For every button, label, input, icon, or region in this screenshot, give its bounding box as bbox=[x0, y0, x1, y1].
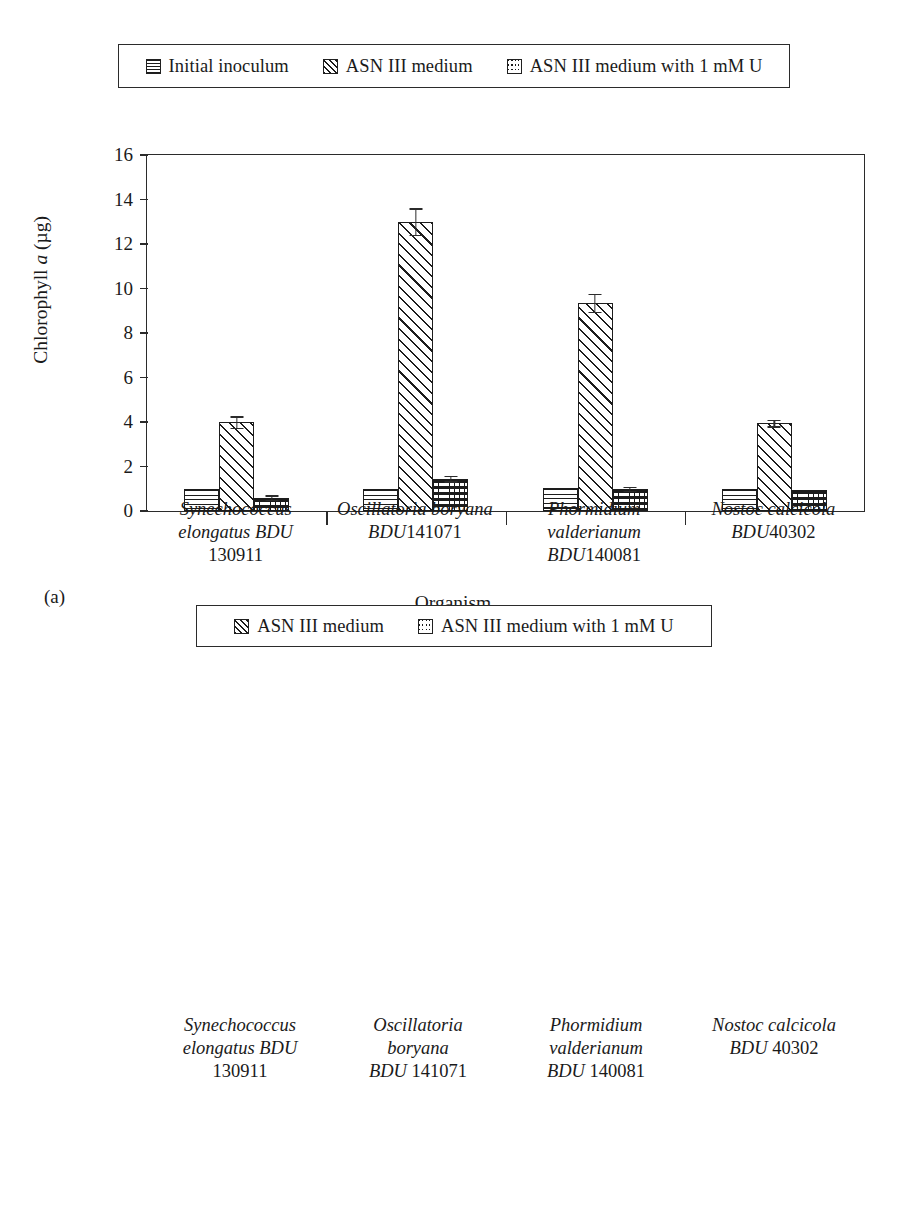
bar bbox=[398, 222, 433, 511]
legend-swatch-dotted-icon bbox=[507, 59, 522, 74]
x-axis-category-line: BDU 141071 bbox=[315, 1060, 521, 1083]
bar bbox=[578, 303, 613, 511]
y-axis-tick: 16 bbox=[114, 144, 147, 166]
legend-panel-a: Initial inoculum ASN III medium ASN III … bbox=[118, 44, 790, 88]
y-axis-tick-label: 2 bbox=[124, 456, 141, 478]
y-axis-tick-label: 14 bbox=[114, 189, 140, 211]
y-axis-tick-mark bbox=[140, 199, 148, 200]
x-axis-category-line: valderianum bbox=[491, 521, 698, 544]
error-bar-cap bbox=[409, 208, 422, 209]
legend-item-asn-iii-medium: ASN III medium bbox=[234, 616, 384, 637]
legend-item-asn-iii-medium: ASN III medium bbox=[323, 56, 473, 77]
legend-label: ASN III medium with 1 mM U bbox=[441, 616, 674, 637]
y-axis-tick-mark bbox=[140, 332, 148, 333]
error-bar-cap bbox=[265, 495, 278, 496]
legend-label: ASN III medium bbox=[257, 616, 384, 637]
plot-area-panel-a: 0246810121416 bbox=[146, 154, 865, 512]
y-axis-tick-label: 8 bbox=[124, 322, 141, 344]
x-axis-category-label: Oscillatoria boryanaBDU141071 bbox=[311, 498, 518, 544]
x-axis-category-label: PhormidiumvalderianumBDU140081 bbox=[491, 498, 698, 567]
error-bar-cap bbox=[230, 428, 243, 429]
x-axis-category-line: BDU40302 bbox=[670, 521, 877, 544]
legend-swatch-dotted-icon bbox=[418, 619, 433, 634]
figure-root: Initial inoculum ASN III medium ASN III … bbox=[0, 0, 906, 1215]
legend-label: ASN III medium with 1 mM U bbox=[530, 56, 763, 77]
error-bar-cap bbox=[444, 481, 457, 482]
legend-label: Initial inoculum bbox=[169, 56, 289, 77]
x-axis-category-line: Nostoc calcicola bbox=[671, 1014, 877, 1037]
error-bar bbox=[236, 416, 237, 427]
x-axis-category-line: Nostoc calcicola bbox=[670, 498, 877, 521]
x-axis-category-label: Nostoc calcicolaBDU40302 bbox=[670, 498, 877, 544]
x-axis-category-label: OscillatoriaboryanaBDU 141071 bbox=[315, 1014, 521, 1083]
y-axis-tick-mark bbox=[140, 466, 148, 467]
error-bar-cap bbox=[768, 420, 781, 421]
x-axis-category-line: Phormidium bbox=[491, 498, 698, 521]
panel-b: ASN III medium ASN III medium with 1 mM … bbox=[0, 595, 906, 1190]
x-axis-category-label: Nostoc calcicolaBDU 40302 bbox=[671, 1014, 877, 1060]
y-axis-tick: 12 bbox=[114, 233, 147, 255]
legend-item-asn-iii-medium-with-uranium: ASN III medium with 1 mM U bbox=[507, 56, 763, 77]
x-axis-category-line: Oscillatoria bbox=[315, 1014, 521, 1037]
y-axis-tick: 4 bbox=[124, 411, 148, 433]
error-bar-cap bbox=[589, 312, 602, 313]
x-axis-category-line: Synechococcus bbox=[132, 498, 339, 521]
x-axis-category-line: BDU141071 bbox=[311, 521, 518, 544]
x-axis-category-line: BDU 40302 bbox=[671, 1037, 877, 1060]
error-bar-cap bbox=[589, 294, 602, 295]
legend-panel-b: ASN III medium ASN III medium with 1 mM … bbox=[196, 605, 712, 647]
y-axis-title-panel-a: Chlorophyll a (µg) bbox=[30, 216, 52, 364]
x-axis-category-label: Synechococcuselongatus BDU130911 bbox=[132, 498, 339, 567]
y-axis-tick-mark bbox=[140, 243, 148, 244]
error-bar bbox=[415, 208, 416, 235]
x-axis-category-label: PhormidiumvalderianumBDU 140081 bbox=[493, 1014, 699, 1083]
error-bar-cap bbox=[624, 487, 637, 488]
y-axis-tick-label: 12 bbox=[114, 233, 140, 255]
x-axis-category-line: 130911 bbox=[132, 544, 339, 567]
y-axis-tick-mark bbox=[140, 288, 148, 289]
legend-swatch-diagonal-hatch-icon bbox=[234, 619, 249, 634]
y-axis-tick-label: 4 bbox=[124, 411, 141, 433]
error-bar-cap bbox=[230, 416, 243, 417]
y-axis-tick-label: 6 bbox=[124, 367, 141, 389]
x-axis-category-line: Oscillatoria boryana bbox=[311, 498, 518, 521]
y-axis-tick-mark bbox=[140, 421, 148, 422]
x-axis-category-line: BDU140081 bbox=[491, 544, 698, 567]
error-bar-cap bbox=[624, 491, 637, 492]
y-axis-tick-mark bbox=[140, 377, 148, 378]
x-axis-category-line: elongatus BDU bbox=[137, 1037, 343, 1060]
x-axis-category-line: elongatus BDU bbox=[132, 521, 339, 544]
error-bar-cap bbox=[768, 426, 781, 427]
error-bar-cap bbox=[444, 476, 457, 477]
y-axis-tick: 10 bbox=[114, 278, 147, 300]
y-axis-tick-mark bbox=[140, 154, 148, 155]
x-axis-category-line: 130911 bbox=[137, 1060, 343, 1083]
x-axis-category-line: boryana bbox=[315, 1037, 521, 1060]
y-axis-tick: 2 bbox=[124, 456, 148, 478]
x-axis-category-line: Synechococcus bbox=[137, 1014, 343, 1037]
y-axis-tick-label: 10 bbox=[114, 278, 140, 300]
x-axis-category-line: BDU 140081 bbox=[493, 1060, 699, 1083]
y-axis-tick: 14 bbox=[114, 189, 147, 211]
legend-swatch-horizontal-lines-icon bbox=[146, 59, 161, 74]
x-axis-category-line: Phormidium bbox=[493, 1014, 699, 1037]
legend-swatch-diagonal-hatch-icon bbox=[323, 59, 338, 74]
panel-a: Initial inoculum ASN III medium ASN III … bbox=[0, 30, 906, 590]
x-axis-category-line: valderianum bbox=[493, 1037, 699, 1060]
error-bar bbox=[594, 294, 595, 312]
legend-item-initial-inoculum: Initial inoculum bbox=[146, 56, 289, 77]
error-bar-cap bbox=[409, 235, 422, 236]
y-axis-tick: 8 bbox=[124, 322, 148, 344]
y-axis-tick: 6 bbox=[124, 367, 148, 389]
legend-item-asn-iii-medium-with-uranium: ASN III medium with 1 mM U bbox=[418, 616, 674, 637]
y-axis-tick-label: 16 bbox=[114, 144, 140, 166]
legend-label: ASN III medium bbox=[346, 56, 473, 77]
x-axis-category-label: Synechococcuselongatus BDU130911 bbox=[137, 1014, 343, 1083]
